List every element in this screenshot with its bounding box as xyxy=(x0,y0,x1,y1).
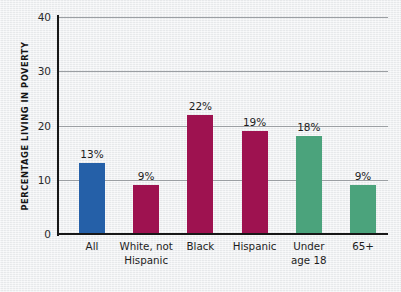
y-axis-line xyxy=(57,15,59,236)
bar-value-label: 9% xyxy=(335,171,391,182)
bar-hispanic xyxy=(242,131,268,234)
bar-65 xyxy=(350,185,376,234)
x-axis-line xyxy=(57,233,388,235)
bar-value-label: 22% xyxy=(172,101,228,112)
bar-value-label: 9% xyxy=(118,171,174,182)
bar-value-label: 19% xyxy=(227,117,283,128)
gridline xyxy=(57,126,388,127)
bar-under-age-18 xyxy=(296,136,322,234)
x-axis-category-label: 65+ xyxy=(328,240,398,254)
x-axis-category-line: 65+ xyxy=(328,240,398,254)
x-axis-category-line: age 18 xyxy=(274,254,344,268)
bar-value-label: 18% xyxy=(281,122,337,133)
plot-area: 13%9%22%19%18%9% xyxy=(57,17,388,234)
bar-black xyxy=(187,115,213,234)
x-axis-category-line: Hispanic xyxy=(111,254,181,268)
bar-all xyxy=(79,163,105,234)
bar-value-label: 13% xyxy=(64,149,120,160)
gridline xyxy=(57,17,388,18)
y-axis-tick-label: 20 xyxy=(11,121,51,131)
y-axis-tick-label: 40 xyxy=(11,12,51,22)
y-axis-tick-label: 0 xyxy=(11,229,51,239)
y-axis-tick-labels: 010203040 xyxy=(5,17,51,234)
y-axis-tick-label: 30 xyxy=(11,66,51,76)
x-axis-category-labels: AllWhite, notHispanicBlackHispanicUndera… xyxy=(57,240,388,284)
poverty-bar-chart: PERCENTAGE LIVING IN POVERTY 010203040 1… xyxy=(0,0,401,292)
y-axis-tick-label: 10 xyxy=(11,175,51,185)
bar-white-not-hispanic xyxy=(133,185,159,234)
gridline xyxy=(57,71,388,72)
